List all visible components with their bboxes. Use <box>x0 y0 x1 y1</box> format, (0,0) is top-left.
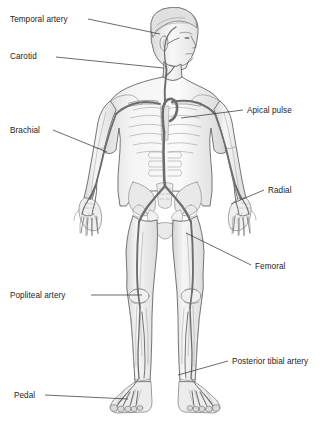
foot-left <box>110 382 152 413</box>
label-apical-pulse: Apical pulse <box>247 106 292 116</box>
arterial-system <box>81 27 250 406</box>
leader-pedal <box>45 395 128 399</box>
label-pedal: Pedal <box>14 391 35 401</box>
leader-temporal-artery <box>88 19 160 34</box>
label-femoral: Femoral <box>255 262 285 272</box>
head-group <box>151 7 198 81</box>
label-popliteal-artery: Popliteal artery <box>10 291 65 301</box>
label-brachial: Brachial <box>10 126 40 136</box>
leader-carotid <box>56 57 163 68</box>
thoracic-aorta <box>164 132 166 186</box>
label-carotid: Carotid <box>10 52 37 62</box>
foot-right <box>178 382 220 413</box>
label-radial: Radial <box>268 186 292 196</box>
diagram-canvas: Temporal arteryCarotidBrachialPopliteal … <box>0 0 330 424</box>
label-temporal-artery: Temporal artery <box>10 15 68 25</box>
groin <box>156 223 173 240</box>
label-posterior-tibial-artery: Posterior tibial artery <box>232 357 308 367</box>
body-silhouette <box>74 7 256 413</box>
